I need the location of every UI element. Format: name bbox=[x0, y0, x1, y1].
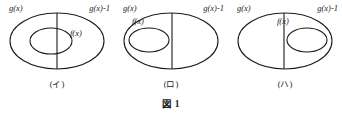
outer-right-label-c: g(x)-1 bbox=[317, 4, 338, 13]
outer-left-label-b: g(x) bbox=[123, 4, 137, 13]
inner-label-b: f(x) bbox=[132, 17, 144, 26]
panel-caption-b: (ロ) bbox=[114, 77, 228, 89]
panel-caption-a: (イ) bbox=[0, 77, 114, 89]
outer-left-label-c: g(x) bbox=[237, 4, 251, 13]
diagram-panel-c: g(x) g(x)-1 f(x) (ハ) bbox=[228, 0, 342, 96]
figure-1-diagram: g(x) g(x)-1 f(x) (イ) g(x) g(x)-1 f(x) (ロ… bbox=[0, 0, 342, 115]
inner-label-a: f(x) bbox=[70, 29, 82, 38]
inner-ellipse-a bbox=[30, 28, 72, 54]
diagram-panel-b: g(x) g(x)-1 f(x) (ロ) bbox=[114, 0, 228, 96]
inner-ellipse-b bbox=[129, 28, 169, 52]
inner-ellipse-c bbox=[287, 28, 327, 52]
figure-caption: 図 1 bbox=[0, 96, 342, 110]
outer-right-label-a: g(x)-1 bbox=[89, 4, 110, 13]
panel-caption-c: (ハ) bbox=[228, 77, 342, 89]
outer-left-label-a: g(x) bbox=[9, 4, 23, 13]
diagram-panel-a: g(x) g(x)-1 f(x) (イ) bbox=[0, 0, 114, 96]
inner-label-c: f(x) bbox=[277, 17, 289, 26]
outer-right-label-b: g(x)-1 bbox=[203, 4, 224, 13]
panel-row: g(x) g(x)-1 f(x) (イ) g(x) g(x)-1 f(x) (ロ… bbox=[0, 0, 342, 96]
